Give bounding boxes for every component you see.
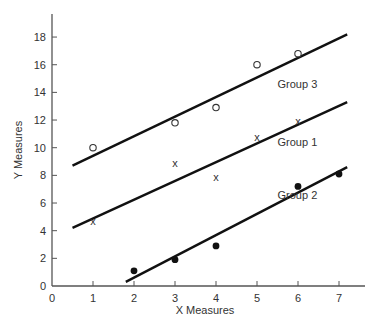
axis-ticks: 01234567024681012141618 [34,31,342,304]
group-labels: Group 3Group 1Group 2 [278,78,318,201]
filled-circle-marker [172,256,179,263]
x-tick-label: 0 [49,292,55,304]
x-marker: x [254,131,260,143]
x-tick-label: 4 [213,292,219,304]
y-tick-label: 12 [34,114,46,126]
group-label: Group 1 [278,136,318,148]
x-tick-label: 1 [90,292,96,304]
open-circle-marker [295,50,301,56]
y-axis-label: Y Measures [12,120,24,179]
filled-circle-marker [131,267,138,274]
x-tick-label: 5 [254,292,260,304]
x-marker: x [295,115,301,127]
fit-lines [73,34,348,282]
fit-line [73,102,348,228]
x-tick-label: 7 [336,292,342,304]
group-label: Group 3 [278,78,318,90]
filled-circle-marker [336,171,343,178]
open-circle-marker [172,120,178,126]
x-marker: x [213,171,219,183]
open-circle-marker [213,104,219,110]
axes [52,14,365,286]
open-circle-marker [254,62,260,68]
y-tick-label: 8 [40,169,46,181]
x-marker: x [90,215,96,227]
y-tick-label: 2 [40,252,46,264]
y-tick-label: 4 [40,225,46,237]
y-tick-label: 18 [34,31,46,43]
y-tick-label: 14 [34,86,46,98]
x-tick-label: 6 [295,292,301,304]
group-label: Group 2 [278,189,318,201]
x-tick-label: 3 [172,292,178,304]
y-tick-label: 6 [40,197,46,209]
x-marker: x [172,157,178,169]
filled-circle-marker [213,242,220,249]
open-circle-marker [90,145,96,151]
fit-line [126,167,347,282]
y-tick-label: 10 [34,142,46,154]
scatter-chart: 01234567024681012141618 xxxxx Group 3Gro… [0,0,383,335]
y-tick-label: 0 [40,280,46,292]
y-tick-label: 16 [34,59,46,71]
x-tick-label: 2 [131,292,137,304]
x-axis-label: X Measures [176,304,235,316]
